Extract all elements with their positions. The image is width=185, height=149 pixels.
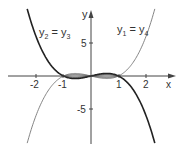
x-axis-label: x [166,79,171,90]
curve-label-y1-y4: y1 = y4 [117,23,148,37]
x-axis-arrow-icon [168,74,176,79]
tick-label-x-2: 2 [143,79,149,90]
tick-label-x-minus-2: -2 [30,79,39,90]
y-axis-arrow-icon [89,10,94,18]
y-axis-label: y [82,8,88,20]
function-plot: -2 -1 1 2 5 -5 x y y2 = y3 y1 = y4 [0,0,185,149]
tick-label-x-1: 1 [116,79,122,90]
tick-label-y-minus-5: -5 [77,104,86,115]
tick-label-y-5: 5 [81,38,87,49]
curve-label-y2-y3: y2 = y3 [39,26,70,40]
tick-label-x-minus-1: -1 [58,79,67,90]
